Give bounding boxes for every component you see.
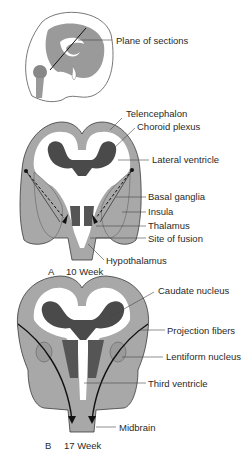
label-choroid-plexus: Choroid plexus: [137, 122, 200, 132]
section-b-illustration: [17, 276, 165, 432]
panel-b-age: 17 Week: [64, 441, 101, 451]
label-lentiform-nucleus: Lentiform nucleus: [166, 352, 241, 362]
label-third-ventricle: Third ventricle: [148, 379, 208, 389]
panel-b-letter: B: [45, 441, 51, 451]
panel-a-letter: A: [48, 267, 54, 277]
label-plane-of-sections: Plane of sections: [116, 36, 188, 46]
label-basal-ganglia: Basal ganglia: [148, 192, 205, 202]
label-caudate-nucleus: Caudate nucleus: [158, 286, 229, 296]
panel-a-age: 10 Week: [66, 267, 103, 277]
label-site-of-fusion: Site of fusion: [148, 234, 203, 244]
label-telencephalon: Telencephalon: [126, 109, 187, 119]
sagittal-head-illustration: [26, 12, 113, 101]
label-lateral-ventricle: Lateral ventricle: [152, 155, 219, 165]
label-thalamus: Thalamus: [148, 221, 190, 231]
section-a-illustration: [20, 118, 149, 260]
label-projection-fibers: Projection fibers: [167, 326, 235, 336]
label-hypothalamus: Hypothalamus: [106, 256, 167, 266]
label-midbrain: Midbrain: [119, 423, 155, 433]
label-insula: Insula: [148, 207, 173, 217]
diagram-canvas: [0, 0, 250, 474]
